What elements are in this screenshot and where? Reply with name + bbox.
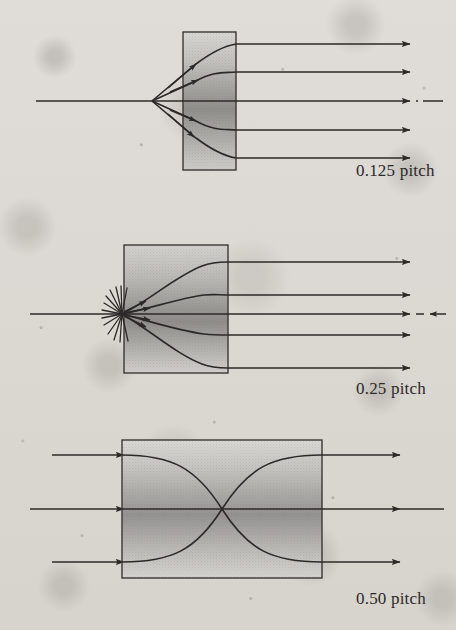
figure-page: 0.125 pitch 0.25 pitch 0.50 pitch xyxy=(0,0,456,630)
panel-0125-pitch xyxy=(36,32,446,170)
pitch-label-0125: 0.125 pitch xyxy=(356,161,435,181)
panel-025-pitch xyxy=(30,245,446,373)
pitch-label-050: 0.50 pitch xyxy=(356,589,426,609)
grin-lens-halftone-025 xyxy=(124,245,228,373)
pitch-label-025: 0.25 pitch xyxy=(356,379,426,399)
panel-050-pitch xyxy=(30,440,444,578)
grin-lens-ray-diagram xyxy=(0,0,456,630)
